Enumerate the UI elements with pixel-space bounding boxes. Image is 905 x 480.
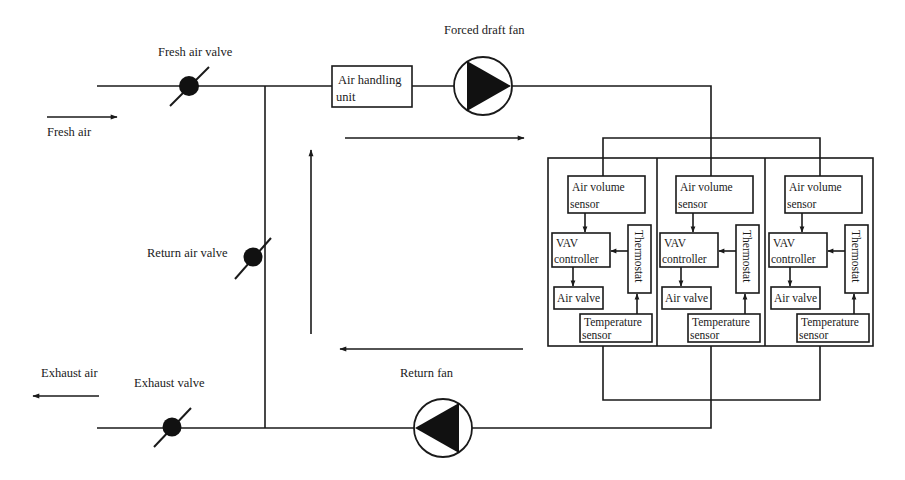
forced-draft-fan-icon[interactable]: [454, 57, 512, 115]
zone-1[interactable]: Air volume sensor VAV controller Thermos…: [552, 158, 652, 342]
air-volume-sensor-label-2: sensor: [678, 198, 708, 210]
air-handling-unit[interactable]: Air handling unit: [332, 66, 412, 107]
vav-controller-label-1: VAV: [556, 237, 579, 249]
air-volume-sensor-label-1: Air volume: [680, 181, 733, 193]
air-valve-label: Air valve: [774, 292, 817, 304]
temperature-sensor-label-1: Temperature: [584, 316, 642, 329]
vav-controller-label-2: controller: [662, 253, 707, 265]
vav-controller-label-1: VAV: [773, 237, 796, 249]
fresh-air-label: Fresh air: [47, 125, 92, 139]
vav-controller-label-2: controller: [554, 253, 599, 265]
return-fan-icon[interactable]: [414, 399, 472, 457]
ahu-label-line1: Air handling: [338, 73, 402, 87]
vav-controller-label-2: controller: [771, 253, 816, 265]
temperature-sensor-label-2: sensor: [799, 329, 829, 341]
temperature-sensor-label-1: Temperature: [801, 316, 859, 329]
return-fan-label: Return fan: [400, 366, 454, 380]
temperature-sensor-label-1: Temperature: [692, 316, 750, 329]
zone-3[interactable]: Air volume sensor VAV controller Thermos…: [769, 158, 869, 342]
exhaust-valve-label: Exhaust valve: [134, 376, 205, 390]
air-volume-sensor-label-2: sensor: [570, 198, 600, 210]
zone-2[interactable]: Air volume sensor VAV controller Thermos…: [660, 158, 760, 342]
air-volume-sensor-label-1: Air volume: [789, 181, 842, 193]
air-volume-sensor-label-2: sensor: [787, 198, 817, 210]
thermostat-label: Thermostat: [633, 230, 645, 283]
fresh-air-valve-label: Fresh air valve: [158, 45, 233, 59]
thermostat-label: Thermostat: [850, 230, 862, 283]
ahu-label-line2: unit: [336, 90, 356, 104]
air-volume-sensor-label-1: Air volume: [572, 181, 625, 193]
exhaust-air-label: Exhaust air: [41, 366, 98, 380]
vav-system-diagram: Air handling unit Fresh air valve Forced…: [0, 0, 905, 480]
thermostat-label: Thermostat: [741, 230, 753, 283]
temperature-sensor-label-2: sensor: [690, 329, 720, 341]
vav-controller-label-1: VAV: [664, 237, 687, 249]
air-valve-label: Air valve: [557, 292, 600, 304]
return-air-valve-label: Return air valve: [147, 246, 228, 260]
forced-draft-fan-label: Forced draft fan: [444, 23, 525, 37]
temperature-sensor-label-2: sensor: [582, 329, 612, 341]
air-valve-label: Air valve: [665, 292, 708, 304]
